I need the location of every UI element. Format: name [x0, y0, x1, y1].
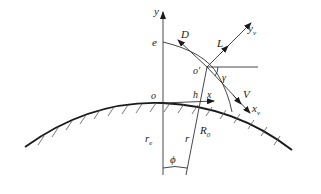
r-label: r: [185, 132, 190, 144]
phi-arc: [163, 167, 187, 169]
yv-label: yv: [247, 22, 257, 37]
D-label: D: [180, 28, 189, 40]
L-label: L: [216, 37, 223, 49]
trajectory-geometry-diagram: y e D L yv o′ γ o h x V xv re r R0 ϕ: [0, 0, 321, 194]
o-prime-label: o′: [193, 65, 201, 76]
y-axis-label: y: [153, 5, 159, 17]
ground-hatching: [38, 103, 280, 145]
h-label: h: [193, 89, 198, 100]
drag-vector-D: [178, 40, 207, 67]
o-origin-label: o: [151, 90, 156, 101]
velocity-vector-V: [233, 95, 241, 104]
x-axis-label: x: [206, 89, 212, 100]
yv-axis: [207, 23, 251, 67]
V-label: V: [243, 88, 251, 100]
gamma-label: γ: [222, 72, 227, 83]
R0-label: R0: [199, 124, 211, 139]
r-radius-line: [186, 67, 207, 175]
e-point-label: e: [152, 36, 157, 48]
re-label: re: [145, 132, 152, 147]
x-axis: [163, 101, 214, 103]
xv-label: xv: [251, 102, 261, 117]
phi-label: ϕ: [170, 153, 176, 165]
